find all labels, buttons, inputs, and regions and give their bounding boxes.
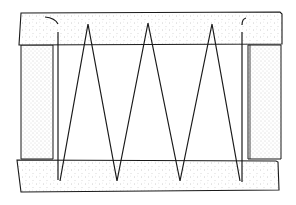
frame-lacing-diagram: [0, 0, 296, 205]
diagram-canvas: [0, 0, 296, 205]
left-post: [21, 45, 53, 159]
right-post: [248, 45, 281, 159]
lacing-cord: [60, 23, 240, 181]
